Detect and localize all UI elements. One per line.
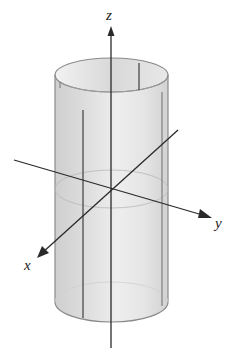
y-axis-arrow-icon: [198, 209, 212, 218]
x-axis-label: x: [23, 257, 31, 273]
z-axis-label: z: [105, 7, 112, 23]
cylinder-diagram: y x z: [0, 0, 245, 362]
y-axis-label: y: [213, 215, 222, 231]
z-axis-arrow-icon: [108, 26, 115, 36]
